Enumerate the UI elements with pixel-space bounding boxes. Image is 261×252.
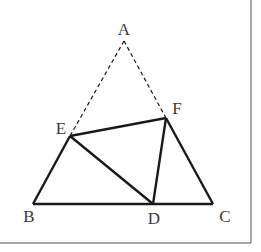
segment-CF bbox=[166, 118, 213, 204]
triangle-fold-diagram: A E F B D C bbox=[0, 0, 261, 252]
segment-EF bbox=[70, 118, 166, 136]
label-C: C bbox=[219, 207, 230, 226]
segment-AE-dashed bbox=[70, 41, 124, 136]
label-A: A bbox=[118, 20, 131, 39]
label-D: D bbox=[148, 209, 160, 228]
label-F: F bbox=[172, 99, 181, 118]
segment-FD bbox=[153, 118, 166, 204]
segment-AF-dashed bbox=[124, 41, 166, 118]
segment-BE bbox=[33, 136, 70, 204]
label-B: B bbox=[23, 207, 34, 226]
label-E: E bbox=[56, 119, 66, 138]
segment-ED bbox=[70, 136, 153, 204]
